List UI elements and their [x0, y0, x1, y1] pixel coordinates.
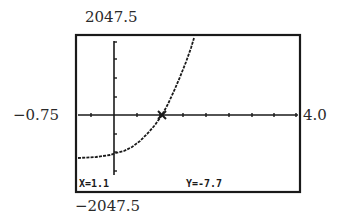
- y-readout: Y=-7.7: [186, 178, 222, 189]
- x-readout: X=1.1: [79, 178, 109, 189]
- calculator-graph-screen: X=1.1 Y=-7.7: [0, 0, 348, 221]
